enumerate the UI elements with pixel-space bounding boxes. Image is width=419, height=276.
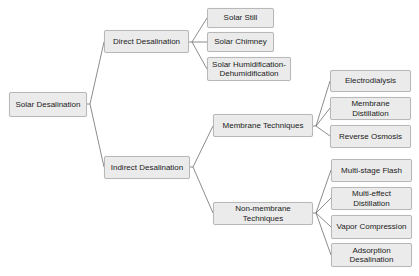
node-indirect-desalination: Indirect Desalination <box>104 156 190 179</box>
solar-desalination-tree-diagram: Solar Desalination Direct Desalination S… <box>0 0 419 276</box>
node-label: Electrodialysis <box>345 76 396 86</box>
node-reverse-osmosis: Reverse Osmosis <box>330 125 411 148</box>
node-label: Solar Desalination <box>16 100 81 110</box>
node-multi-effect-distillation: Multi-effect Distillation <box>331 187 412 210</box>
node-label: Direct Desalination <box>113 37 180 47</box>
node-solar-chimney: Solar Chimney <box>207 32 274 52</box>
node-solar-desalination: Solar Desalination <box>9 92 87 117</box>
node-label: Membrane Techniques <box>223 121 304 131</box>
node-solar-still: Solar Still <box>207 8 274 28</box>
node-label: Multi-effect Distillation <box>346 189 397 208</box>
node-label: Non-membrane Techniques <box>234 204 292 223</box>
node-label: Vapor Compression <box>336 222 406 232</box>
node-label: Reverse Osmosis <box>339 132 402 142</box>
node-vapor-compression: Vapor Compression <box>331 215 412 239</box>
node-non-membrane-techniques: Non-membrane Techniques <box>213 202 313 225</box>
node-label: Multi-stage Flash <box>341 166 402 176</box>
node-label: Solar Chimney <box>214 37 266 47</box>
node-label: Membrane Distillation <box>345 99 396 118</box>
node-multi-stage-flash: Multi-stage Flash <box>331 159 412 182</box>
node-membrane-techniques: Membrane Techniques <box>213 114 313 137</box>
node-label: Solar Still <box>224 13 258 23</box>
node-label: Adsorption Desalination <box>344 246 399 265</box>
node-electrodialysis: Electrodialysis <box>330 70 411 92</box>
node-direct-desalination: Direct Desalination <box>104 30 189 53</box>
node-membrane-distillation: Membrane Distillation <box>330 97 411 120</box>
node-adsorption-desalination: Adsorption Desalination <box>331 243 412 267</box>
node-solar-humidification-dehumidification: Solar Humidification-Dehumidification <box>207 57 291 81</box>
node-label: Indirect Desalination <box>111 163 183 173</box>
node-label: Solar Humidification-Dehumidification <box>208 60 290 79</box>
